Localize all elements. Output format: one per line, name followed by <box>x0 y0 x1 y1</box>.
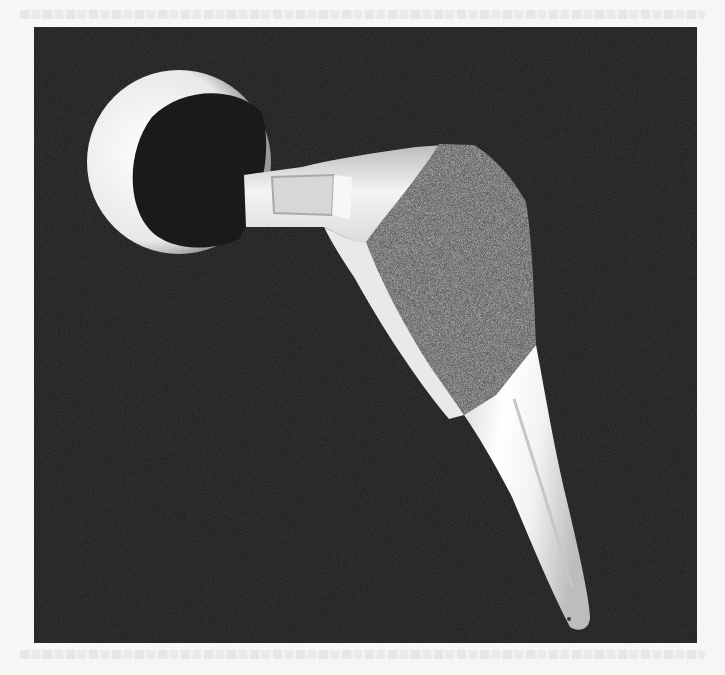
implant-illustration <box>34 27 697 643</box>
bleed-through-text-line <box>20 650 705 659</box>
implant-photo <box>34 27 697 643</box>
femoral-head <box>87 70 271 254</box>
bleed-through-text-line <box>20 10 705 19</box>
